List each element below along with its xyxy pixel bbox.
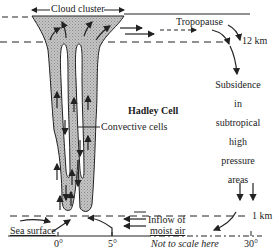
sea-surface-label: Sea surface: [10, 226, 56, 236]
convective-cells-label: Convective cells: [101, 122, 167, 132]
hadley-cell-label: Hadley Cell: [128, 106, 178, 116]
cloud-cluster-label: Cloud cluster: [51, 4, 105, 14]
inflow-label-line2: moist air: [150, 226, 185, 236]
subsidence-label: Subsidence in subtropical high pressure …: [208, 80, 268, 194]
axis-tick-5: 5°: [108, 239, 117, 249]
axis-tick-30: 30°: [244, 239, 258, 249]
tropopause-label: Tropopause: [176, 17, 223, 27]
not-to-scale-label: Not to scale here: [151, 239, 219, 249]
inflow-label-line1: Inflow of: [148, 215, 186, 225]
altitude-1km-label: 1 km: [252, 211, 272, 221]
axis-tick-0: 0°: [54, 239, 63, 249]
altitude-12km-label: 12 km: [242, 36, 267, 46]
